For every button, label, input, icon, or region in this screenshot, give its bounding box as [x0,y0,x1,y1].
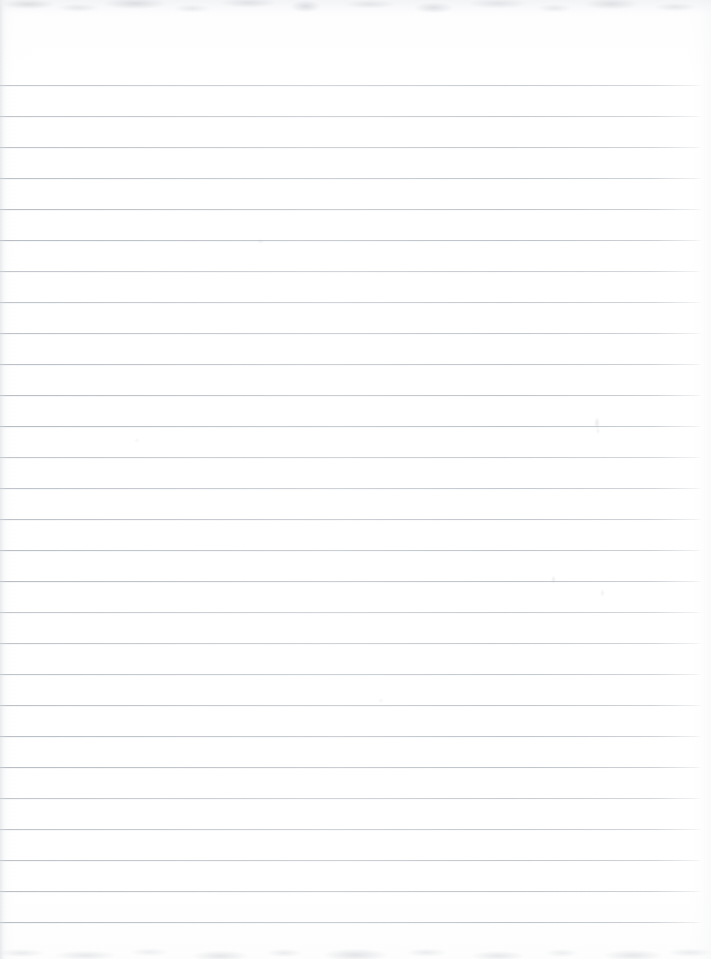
page-text-content[interactable] [0,85,702,929]
scan-edge-artifact-top [0,0,711,14]
scanned-page [0,0,711,959]
scan-edge-artifact-bottom [0,939,711,959]
